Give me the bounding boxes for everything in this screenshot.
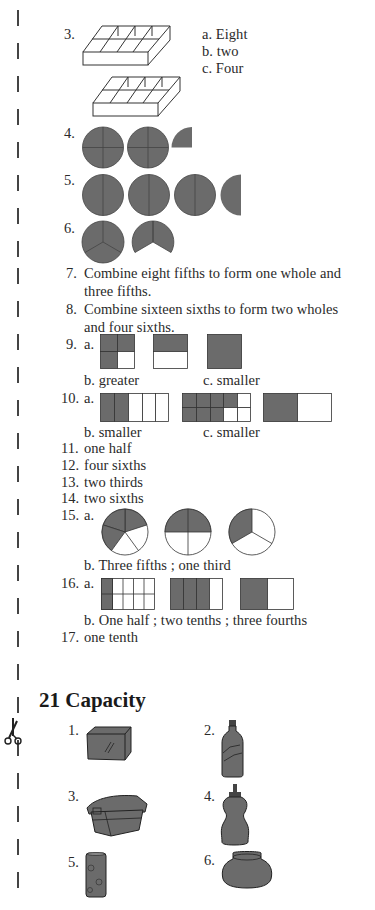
- capacity-item-2-number: 2.: [204, 722, 215, 739]
- drinking-glass-icon: [85, 852, 107, 898]
- q10-part-c: c. smaller: [203, 424, 260, 441]
- quarters-circles-figure: [82, 126, 197, 169]
- q13-answer: two thirds: [84, 474, 143, 491]
- thirds-circles-figure: [82, 220, 177, 264]
- q10-part-a: a.: [84, 390, 94, 407]
- halves-circles-figure: [82, 174, 247, 216]
- q15-pie-circles-figure: [101, 508, 276, 556]
- q3-answer-b: b. two: [202, 43, 239, 60]
- q9-number: 9.: [66, 336, 77, 353]
- squeeze-bottle-icon: [220, 784, 250, 846]
- q16-part-b: b. One half ; two tenths ; three fourths: [84, 612, 307, 629]
- q7-line1: Combine eight fifths to form one whole a…: [84, 265, 341, 282]
- soda-bottle-icon: [220, 719, 246, 779]
- q9-squares-figure: [100, 334, 245, 370]
- q15-number: 15.: [61, 507, 79, 524]
- lidded-container-icon: [85, 792, 149, 837]
- q8-number: 8.: [66, 301, 77, 318]
- q10-number: 10.: [61, 390, 79, 407]
- q12-answer: four sixths: [84, 457, 146, 474]
- q6-number: 6.: [64, 220, 75, 237]
- q17-answer: one tenth: [84, 629, 138, 646]
- q7-number: 7.: [66, 265, 77, 282]
- q12-number: 12.: [61, 457, 79, 474]
- egg-carton-icon: [82, 24, 172, 66]
- q16-number: 16.: [61, 575, 79, 592]
- q9-part-a: a.: [84, 336, 94, 353]
- q16-part-a: a.: [84, 575, 94, 592]
- q10-rectangles-figure: [100, 393, 335, 423]
- capacity-item-3-number: 3.: [68, 788, 79, 805]
- q16-rectangles-figure: [101, 578, 296, 611]
- q8-line1: Combine sixteen sixths to form two whole…: [84, 301, 338, 318]
- q10-part-b: b. smaller: [84, 424, 142, 441]
- q14-answer: two sixths: [84, 490, 144, 507]
- glass-tank-icon: [85, 726, 133, 762]
- capacity-item-6-number: 6.: [204, 852, 215, 869]
- q15-part-a: a.: [84, 507, 94, 524]
- q3-number: 3.: [64, 26, 75, 43]
- q17-number: 17.: [61, 629, 79, 646]
- q3-answer-a: a. Eight: [202, 26, 248, 43]
- capacity-item-4-number: 4.: [204, 788, 215, 805]
- pot-jar-icon: [221, 851, 273, 889]
- q4-number: 4.: [64, 125, 75, 142]
- q9-part-c: c. smaller: [203, 372, 260, 389]
- section-heading: 21 Capacity: [39, 688, 146, 713]
- capacity-item-1-number: 1.: [68, 722, 79, 739]
- q3-answer-c: c. Four: [202, 60, 243, 77]
- q11-answer: one half: [84, 440, 132, 457]
- q11-number: 11.: [61, 440, 79, 457]
- q7-line2: three fifths.: [84, 283, 152, 300]
- capacity-item-5-number: 5.: [68, 854, 79, 871]
- q5-number: 5.: [64, 172, 75, 189]
- q14-number: 14.: [61, 490, 79, 507]
- q13-number: 13.: [61, 474, 79, 491]
- q9-part-b: b. greater: [84, 372, 139, 389]
- q15-part-b: b. Three fifths ; one third: [84, 557, 231, 574]
- egg-carton-icon: [92, 75, 182, 117]
- scissors-icon: [4, 718, 24, 746]
